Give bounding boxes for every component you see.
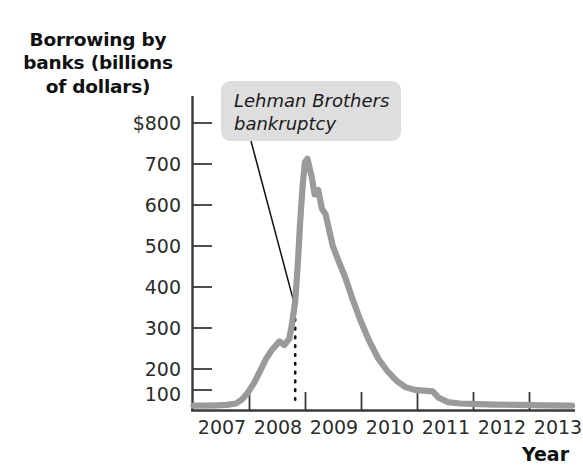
y-tick-label-800: $800 [103, 114, 181, 133]
x-tick-label-2009: 2009 [304, 418, 364, 437]
x-axis-title: Year [522, 443, 569, 465]
annotation-text: Lehman Brothers bankruptcy [234, 89, 391, 135]
x-tick-label-2010: 2010 [360, 418, 420, 437]
plot-area [0, 0, 583, 474]
y-tick-label-600: 600 [103, 196, 181, 215]
x-tick-label-2012: 2012 [472, 418, 532, 437]
y-tick-label-100: 100 [103, 385, 181, 404]
y-tick-label-300: 300 [103, 319, 181, 338]
y-tick-label-200: 200 [103, 360, 181, 379]
y-tick-label-700: 700 [103, 155, 181, 174]
chart-container: Borrowing by banks (billions of dollars) [0, 0, 583, 474]
x-tick-label-2007: 2007 [192, 418, 252, 437]
annotation-leader-line [251, 141, 294, 303]
annotation-callout-lehman: Lehman Brothers bankruptcy [221, 81, 401, 141]
y-axis-ticks [193, 123, 212, 390]
y-tick-label-500: 500 [103, 237, 181, 256]
x-tick-label-2011: 2011 [416, 418, 476, 437]
x-tick-label-2008: 2008 [248, 418, 308, 437]
x-tick-label-2013: 2013 [528, 418, 583, 437]
y-tick-label-400: 400 [103, 278, 181, 297]
data-series-line [194, 159, 573, 406]
